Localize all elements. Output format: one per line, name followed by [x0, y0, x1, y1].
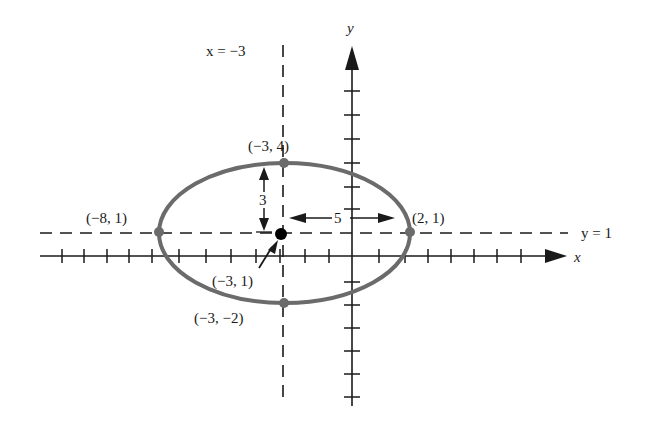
point-label-bottom: (−3, −2): [194, 310, 243, 327]
point-label-top: (−3, 4): [248, 138, 289, 155]
arrow-down-icon: [259, 218, 269, 231]
horizontal-line-label: y = 1: [581, 225, 612, 241]
ellipse-diagram: y x x = −3 y = 1 (−3, 4) (−8, 1) (2, 1) …: [0, 0, 661, 429]
y-axis: [344, 46, 360, 406]
vertex-dot-right: [405, 227, 415, 237]
vertical-line-label: x = −3: [206, 43, 245, 59]
x-axis-label: x: [573, 249, 581, 265]
center-dot: [275, 228, 287, 240]
vertex-dot-left: [154, 227, 164, 237]
point-label-right: (2, 1): [412, 210, 445, 227]
diagram-svg: y x x = −3 y = 1 (−3, 4) (−8, 1) (2, 1) …: [0, 0, 661, 429]
center-pointer-arrow: [259, 240, 278, 268]
vertex-dot-top: [279, 158, 289, 168]
y-axis-arrow-icon: [345, 46, 359, 70]
dimension-label-5: 5: [334, 210, 342, 226]
dimension-arrow-horizontal: [289, 213, 395, 223]
vertex-dot-bottom: [279, 298, 289, 308]
y-axis-label: y: [345, 20, 354, 36]
dimension-label-3: 3: [259, 192, 267, 208]
arrow-left-icon: [289, 213, 306, 223]
arrow-right-icon: [378, 213, 395, 223]
point-label-center: (−3, 1): [212, 273, 253, 290]
point-label-left: (−8, 1): [86, 210, 127, 227]
x-axis-arrow-icon: [545, 249, 567, 263]
x-axis: [40, 249, 567, 263]
arrow-up-icon: [259, 167, 269, 180]
